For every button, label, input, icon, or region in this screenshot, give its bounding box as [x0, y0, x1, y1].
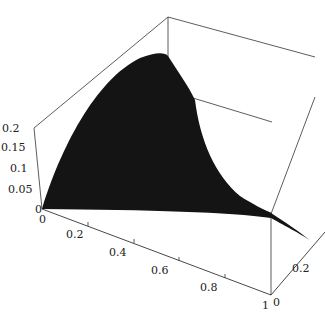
z-tick-label: 0.1 — [10, 162, 28, 175]
z-tick-label: 0.05 — [8, 183, 33, 196]
surface-plot-3d: 0.2 0.15 0.1 0.05 0 0 0.2 0.4 0.6 0.8 1 … — [0, 0, 325, 321]
x-tick-label: 0 — [39, 213, 46, 226]
z-tick-label: 0.2 — [2, 122, 20, 135]
x-tick-label: 0.4 — [109, 246, 127, 259]
x-tick-label: 0.8 — [200, 281, 218, 294]
x-tick-label: 0.2 — [66, 228, 84, 241]
z-tick-label: 0.15 — [1, 141, 26, 154]
y-tick-label: 0 — [273, 296, 280, 309]
x-tick-label: 0.6 — [151, 264, 169, 277]
surface — [42, 53, 312, 242]
x-tick-label: 1 — [262, 299, 269, 312]
y-tick-label: 0.2 — [292, 262, 310, 275]
